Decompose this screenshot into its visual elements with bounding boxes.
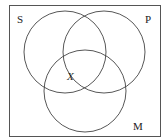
universe-frame: [10, 6, 161, 137]
circle-s: [24, 11, 106, 93]
marker-x: X: [66, 70, 75, 82]
circle-p: [63, 11, 145, 93]
circle-m: [44, 50, 126, 132]
label-p: P: [145, 13, 151, 25]
venn-diagram: S P M X: [0, 0, 163, 139]
label-m: M: [133, 120, 143, 132]
label-s: S: [17, 13, 23, 25]
